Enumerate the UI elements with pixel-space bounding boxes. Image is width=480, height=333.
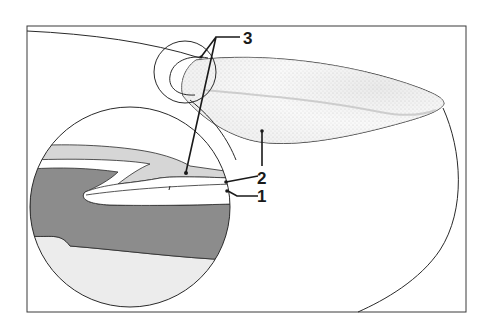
- leader-1-dot: [225, 189, 229, 193]
- leader-1: [228, 191, 258, 196]
- leader-2-dot-b: [260, 129, 264, 133]
- label-3: 3: [243, 29, 252, 48]
- upper-contour-line: [27, 31, 200, 58]
- leader-2-dot-a: [224, 180, 228, 184]
- globe-curve: [358, 108, 458, 312]
- label-2: 2: [257, 169, 266, 188]
- label-1: 1: [257, 187, 266, 206]
- diagram: 3 2 1: [0, 0, 480, 333]
- leader-3-dot-a: [199, 55, 202, 58]
- leader-3-dot-b: [184, 171, 188, 175]
